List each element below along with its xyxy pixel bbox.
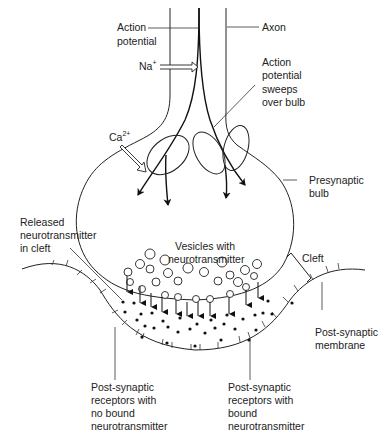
svg-text:no bound: no bound <box>91 407 135 419</box>
svg-text:Ca2+: Ca2+ <box>109 130 130 143</box>
svg-text:Na+: Na+ <box>139 59 157 72</box>
svg-text:Vesicles with: Vesicles with <box>175 240 235 252</box>
svg-text:in cleft: in cleft <box>20 242 50 254</box>
labels: Action potential Axon Na+ Ca2+ Action po… <box>20 21 378 432</box>
synapse-diagram: Action potential Axon Na+ Ca2+ Action po… <box>0 0 391 445</box>
svg-text:potential: potential <box>262 69 302 81</box>
svg-text:Action: Action <box>117 21 146 33</box>
svg-text:neurotransmitter: neurotransmitter <box>91 420 168 432</box>
svg-text:neurotransmitter: neurotransmitter <box>168 253 245 265</box>
svg-text:neurotransmitter: neurotransmitter <box>228 420 305 432</box>
svg-text:receptors with: receptors with <box>228 394 294 406</box>
svg-text:potential: potential <box>117 35 157 47</box>
neurotransmitter-dots <box>121 299 293 347</box>
svg-text:sweeps: sweeps <box>262 83 298 95</box>
svg-text:Presynaptic: Presynaptic <box>309 174 364 186</box>
svg-text:Post-synaptic: Post-synaptic <box>315 326 378 338</box>
svg-text:over bulb: over bulb <box>262 96 305 108</box>
svg-text:neurotransmitter: neurotransmitter <box>20 229 97 241</box>
svg-text:Post-synaptic: Post-synaptic <box>91 381 154 393</box>
svg-text:receptors with: receptors with <box>91 394 157 406</box>
svg-text:Post-synaptic: Post-synaptic <box>228 381 291 393</box>
postsynaptic-membrane <box>22 260 365 350</box>
svg-text:Axon: Axon <box>262 21 286 33</box>
svg-text:membrane: membrane <box>315 339 365 351</box>
svg-text:Action: Action <box>262 56 291 68</box>
svg-text:bound: bound <box>228 407 257 419</box>
svg-text:bulb: bulb <box>309 187 329 199</box>
svg-text:Released: Released <box>20 216 65 228</box>
sodium-arrow-icon <box>160 62 198 72</box>
calcium-arrow-icon <box>120 145 146 172</box>
synapse-svg: Action potential Axon Na+ Ca2+ Action po… <box>0 0 391 445</box>
svg-text:Cleft: Cleft <box>302 252 324 264</box>
